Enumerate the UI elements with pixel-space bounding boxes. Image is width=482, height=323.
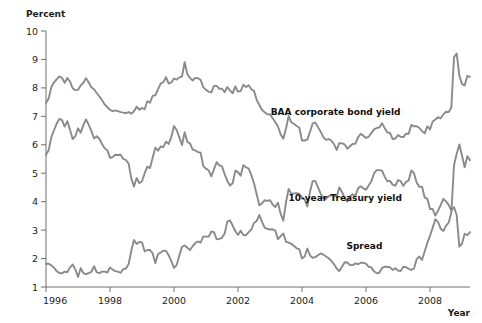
y-axis-ticks: 12345678910 [26, 26, 46, 293]
data-series [46, 53, 470, 277]
y-tick-label: 2 [32, 253, 38, 264]
x-tick-label: 2000 [162, 295, 186, 306]
y-tick-label: 8 [32, 82, 38, 93]
y-tick-label: 6 [32, 139, 38, 150]
x-tick-label: 2006 [354, 295, 378, 306]
axis-lines [46, 31, 470, 287]
x-axis-title: Year [447, 308, 471, 318]
axis-frame [46, 31, 470, 287]
series-line [46, 144, 470, 277]
series-annotation: BAA corporate bond yield [271, 107, 401, 117]
y-tick-label: 9 [32, 54, 38, 65]
y-axis-title: Percent [26, 9, 66, 19]
x-tick-label: 2002 [226, 295, 250, 306]
x-axis-ticks: 1996199820002002200420062008 [43, 287, 442, 306]
y-tick-label: 7 [32, 111, 38, 122]
y-tick-label: 10 [26, 26, 38, 37]
series-annotation: Spread [346, 241, 382, 251]
series-annotations: BAA corporate bond yield10-year Treasury… [271, 107, 402, 251]
x-tick-label: 2008 [418, 295, 442, 306]
x-tick-label: 1996 [43, 295, 67, 306]
x-tick-label: 2004 [290, 295, 314, 306]
series-line [46, 53, 470, 149]
chart-figure: Percent Year 12345678910 199619982000200… [0, 0, 482, 323]
x-tick-label: 1998 [98, 295, 122, 306]
line-chart: Percent Year 12345678910 199619982000200… [0, 0, 482, 323]
series-line [46, 119, 470, 247]
y-tick-label: 3 [32, 225, 38, 236]
y-tick-label: 1 [32, 282, 38, 293]
series-annotation: 10-year Treasury yield [288, 193, 401, 203]
y-tick-label: 4 [32, 196, 38, 207]
y-tick-label: 5 [32, 168, 38, 179]
